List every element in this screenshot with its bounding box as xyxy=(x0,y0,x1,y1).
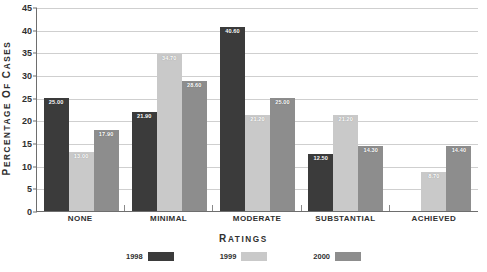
bar-value-label: 25.00 xyxy=(270,100,295,106)
y-axis-title: PERCENTAGE OF CASES xyxy=(0,0,13,216)
bar-chart: PERCENTAGE OF CASES 051015202530354045 2… xyxy=(0,0,487,272)
bar-value-label: 14.40 xyxy=(446,148,471,154)
bar[interactable]: 28.60 xyxy=(182,81,207,211)
x-axis-category-labels: NONEMINIMALMODERATESUBSTANTIALACHIEVED xyxy=(36,214,478,228)
y-axis-title-text: PERCENTAGE OF CASES xyxy=(1,41,12,176)
bar[interactable]: 14.40 xyxy=(446,146,471,211)
bar-value-label: 40.60 xyxy=(220,29,245,35)
legend-item[interactable]: 1999 xyxy=(220,252,268,261)
legend-item[interactable]: 2000 xyxy=(313,252,361,261)
bar-value-label: 28.60 xyxy=(182,83,207,89)
bar-group: 25.0013.0017.90 xyxy=(37,8,125,211)
bar[interactable]: 13.00 xyxy=(69,152,94,211)
x-axis-category-label: MINIMAL xyxy=(124,214,212,228)
bar-value-label: 25.00 xyxy=(44,100,69,106)
bar[interactable]: 34.70 xyxy=(157,54,182,211)
bar-value-label: 21.20 xyxy=(245,117,270,123)
y-axis-tick-label: 45 xyxy=(22,3,32,13)
y-axis-tick-label: 0 xyxy=(27,207,32,217)
bar-group: 40.6021.2025.00 xyxy=(213,8,301,211)
bar[interactable]: 21.20 xyxy=(333,115,358,211)
legend-color-swatch xyxy=(148,252,174,261)
bar[interactable]: 17.90 xyxy=(94,130,119,211)
bar[interactable]: 12.50 xyxy=(308,154,333,211)
y-axis-tick-label: 20 xyxy=(22,116,32,126)
chart-legend: 199819992000 xyxy=(0,252,487,261)
bar-value-label: 14.30 xyxy=(358,148,383,154)
bar[interactable]: 21.20 xyxy=(245,115,270,211)
y-axis-tick-label: 30 xyxy=(22,71,32,81)
bar[interactable]: 40.60 xyxy=(220,27,245,211)
x-axis-category-label: MODERATE xyxy=(213,214,301,228)
bar-value-label: 12.50 xyxy=(308,156,333,162)
bar[interactable]: 25.00 xyxy=(270,98,295,211)
bar-value-label: 13.00 xyxy=(69,154,94,160)
legend-color-swatch xyxy=(335,252,361,261)
legend-color-swatch xyxy=(241,252,267,261)
x-axis-category-label: ACHIEVED xyxy=(390,214,478,228)
bar-group: 12.5021.2014.30 xyxy=(302,8,390,211)
x-axis-title-text: RATINGS xyxy=(219,235,268,244)
y-axis-tick-label: 35 xyxy=(22,48,32,58)
bar[interactable]: 21.90 xyxy=(132,112,157,211)
y-axis-tick-label: 15 xyxy=(22,139,32,149)
plot-area: 051015202530354045 25.0013.0017.9021.903… xyxy=(36,8,478,212)
y-axis-tick-label: 40 xyxy=(22,26,32,36)
bar-group: 21.9034.7028.60 xyxy=(125,8,213,211)
bar-value-label: 17.90 xyxy=(94,132,119,138)
y-axis-tick-label: 25 xyxy=(22,94,32,104)
x-axis-category-label: NONE xyxy=(36,214,124,228)
top-text-strip xyxy=(40,0,340,4)
legend-item-label: 1999 xyxy=(220,252,237,261)
x-axis-title: RATINGS xyxy=(0,233,487,244)
y-axis-tick-mark xyxy=(33,212,37,213)
bar[interactable]: 25.00 xyxy=(44,98,69,211)
y-axis-tick-label: 10 xyxy=(22,162,32,172)
bar[interactable]: 8.70 xyxy=(421,172,446,211)
legend-item[interactable]: 1998 xyxy=(126,252,174,261)
bar-value-label: 21.20 xyxy=(333,117,358,123)
bar-value-label: 34.70 xyxy=(157,56,182,62)
bar-groups: 25.0013.0017.9021.9034.7028.6040.6021.20… xyxy=(37,8,478,211)
legend-item-label: 2000 xyxy=(313,252,330,261)
y-axis-tick-label: 5 xyxy=(27,184,32,194)
bar[interactable]: 14.30 xyxy=(358,146,383,211)
x-axis-category-label: SUBSTANTIAL xyxy=(301,214,389,228)
legend-item-label: 1998 xyxy=(126,252,143,261)
bar-value-label: 21.90 xyxy=(132,114,157,120)
bar-value-label: 8.70 xyxy=(421,174,446,180)
bar-group: 8.7014.40 xyxy=(390,8,478,211)
